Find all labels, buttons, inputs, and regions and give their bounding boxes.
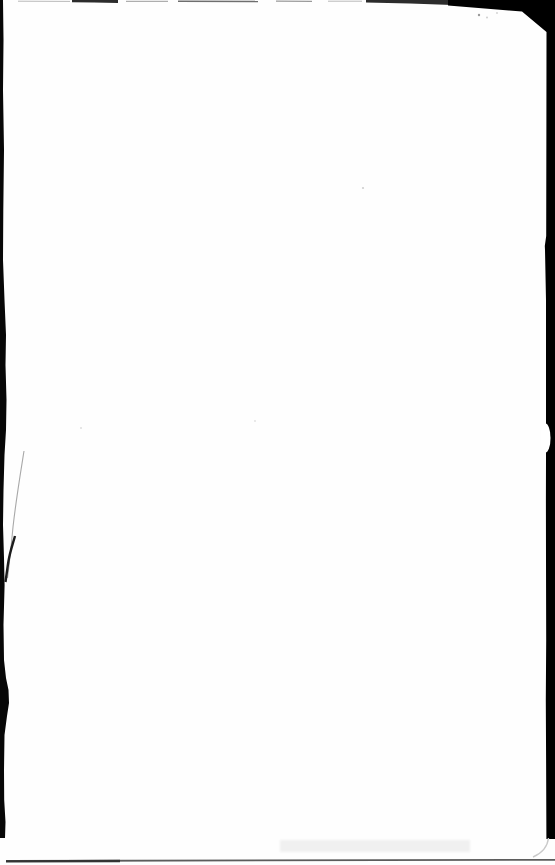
dust-speck-icon bbox=[478, 14, 480, 16]
scan-edge-left-icon bbox=[0, 0, 9, 838]
top-edge-segment bbox=[366, 0, 452, 5]
dust-speck-icon bbox=[486, 17, 488, 19]
page-corner-arc-icon bbox=[533, 838, 549, 857]
scanned-page bbox=[0, 0, 555, 865]
dust-speck-icon bbox=[496, 12, 498, 14]
bottom-smudge-icon bbox=[280, 840, 470, 852]
page-edge-notch-icon bbox=[541, 424, 551, 453]
top-edge-segment bbox=[72, 0, 118, 3]
page-crease-icon bbox=[6, 451, 25, 582]
page-body-blank bbox=[40, 40, 515, 825]
scan-edge-top-icon bbox=[18, 0, 452, 5]
